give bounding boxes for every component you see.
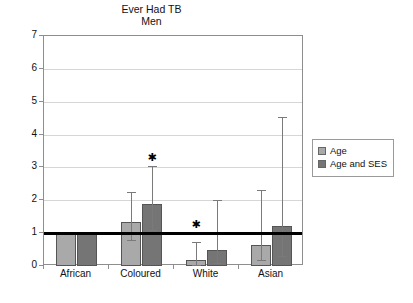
- y-tick-mark: [39, 134, 43, 135]
- legend-item-age[interactable]: Age: [318, 145, 387, 157]
- error-bar-cap-upper: [148, 166, 157, 167]
- y-tick-mark: [39, 68, 43, 69]
- error-bar-cap-lower: [278, 256, 287, 257]
- error-bar-cap-lower: [127, 240, 136, 241]
- error-bar-stem: [152, 166, 153, 230]
- legend-item-age-and-ses[interactable]: Age and SES: [318, 158, 387, 170]
- x-tick-label-asian: Asian: [231, 268, 311, 280]
- x-tick-mark: [108, 265, 109, 269]
- y-tick-mark: [39, 232, 43, 233]
- y-tick-mark: [39, 35, 43, 36]
- y-tick-mark: [39, 199, 43, 200]
- significance-star: ✱: [145, 152, 159, 163]
- chart-subtitle: Men: [0, 15, 303, 27]
- gridline: [44, 102, 302, 103]
- gridline: [44, 200, 302, 201]
- plot-area: ✱✱: [43, 35, 303, 265]
- gridline: [44, 167, 302, 168]
- chart-title-block: Ever Had TB Men: [0, 3, 303, 27]
- y-tick-mark: [39, 166, 43, 167]
- y-tick-label: 3: [7, 161, 37, 171]
- y-tick-label: 5: [7, 96, 37, 106]
- x-tick-mark: [173, 265, 174, 269]
- error-bar-cap-lower: [192, 265, 201, 266]
- legend-swatch-icon: [318, 147, 326, 155]
- plot-inner: ✱✱: [44, 36, 302, 264]
- error-bar-cap-upper: [192, 242, 201, 243]
- reference-line: [44, 232, 302, 235]
- gridline: [44, 69, 302, 70]
- gridline: [44, 135, 302, 136]
- error-bar-stem: [261, 190, 262, 260]
- error-bar-cap-lower: [148, 230, 157, 231]
- y-tick-label: 2: [7, 194, 37, 204]
- y-tick-mark: [39, 101, 43, 102]
- y-tick-label: 6: [7, 63, 37, 73]
- y-tick-label: 0: [7, 260, 37, 270]
- chart-title: Ever Had TB: [0, 3, 303, 15]
- x-tick-mark: [238, 265, 239, 269]
- y-tick-label: 4: [7, 129, 37, 139]
- legend-label: Age: [330, 145, 347, 157]
- error-bar-cap-lower: [257, 260, 266, 261]
- error-bar-stem: [196, 242, 197, 265]
- error-bar-cap-upper: [278, 117, 287, 118]
- error-bar-cap-upper: [213, 200, 222, 201]
- error-bar-stem: [282, 117, 283, 257]
- significance-star: ✱: [189, 219, 203, 230]
- y-tick-label: 1: [7, 227, 37, 237]
- error-bar-cap-lower: [213, 263, 222, 264]
- legend-label: Age and SES: [330, 158, 387, 170]
- x-tick-mark: [43, 265, 44, 269]
- error-bar-cap-upper: [127, 192, 136, 193]
- chart-legend: Age Age and SES: [312, 139, 394, 177]
- error-bar-cap-upper: [257, 190, 266, 191]
- y-tick-label: 7: [7, 30, 37, 40]
- bar-african-age-and-ses[interactable]: [77, 233, 97, 266]
- chart-root: Ever Had TB Men Odds Ratio ✱✱ 01234567 A…: [0, 0, 413, 303]
- legend-swatch-icon: [318, 160, 326, 168]
- bar-african-age[interactable]: [56, 233, 76, 266]
